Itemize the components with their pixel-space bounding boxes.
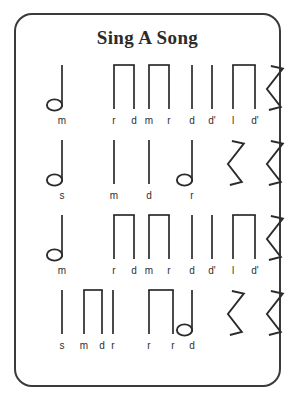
beamed-eighth-pair <box>83 290 103 334</box>
notation-canvas <box>16 284 283 342</box>
notation-row: smdr <box>16 134 279 209</box>
half-note <box>177 140 192 186</box>
solfege-label: m <box>145 115 153 127</box>
solfege-label: r <box>111 340 114 352</box>
solfege-label: r <box>190 190 193 202</box>
notation-canvas <box>16 209 283 267</box>
half-note <box>47 65 62 111</box>
solfege-label: m <box>80 340 88 352</box>
solfege-label: d <box>146 190 152 202</box>
row-glyphs <box>16 59 279 117</box>
row-solfege-labels: smdrrrd <box>16 340 279 358</box>
beamed-eighth-pair <box>148 215 170 259</box>
row-glyphs <box>16 209 279 267</box>
solfege-label: m <box>110 190 118 202</box>
notation-canvas <box>16 134 283 192</box>
beamed-eighth-pair <box>148 65 170 109</box>
solfege-label: d <box>189 115 195 127</box>
solfege-label: d' <box>251 265 258 277</box>
solfege-label: d' <box>251 115 258 127</box>
solfege-label: l <box>232 265 234 277</box>
half-note <box>47 140 62 186</box>
solfege-label: l <box>232 115 234 127</box>
solfege-label: d <box>131 265 137 277</box>
solfege-label: r <box>167 265 170 277</box>
solfege-label: d' <box>208 265 215 277</box>
solfege-label: d <box>189 340 195 352</box>
beamed-eighth-pair <box>232 215 256 259</box>
solfege-label: r <box>171 340 174 352</box>
quarter-rest <box>228 141 244 185</box>
solfege-label: r <box>147 340 150 352</box>
notation-row: mrdmrdd'ld' <box>16 209 279 284</box>
row-solfege-labels: mrdmrdd'ld' <box>16 265 279 283</box>
quarter-rest <box>267 66 283 110</box>
solfege-label: d <box>131 115 137 127</box>
row-glyphs <box>16 134 279 192</box>
solfege-label: d <box>189 265 195 277</box>
solfege-label: m <box>58 265 66 277</box>
solfege-label: m <box>58 115 66 127</box>
half-note <box>47 215 62 261</box>
solfege-label: s <box>60 340 65 352</box>
row-glyphs <box>16 284 279 342</box>
notation-canvas <box>16 59 283 117</box>
solfege-label: r <box>112 265 115 277</box>
page-title: Sing A Song <box>16 27 279 49</box>
quarter-rest <box>267 141 283 185</box>
notation-row: smdrrrd <box>16 284 279 359</box>
half-note <box>177 290 192 336</box>
notation-rows: mrdmrdd'ld' smdr mrdmrdd'ld' smdrrrd <box>16 59 279 359</box>
song-card: Sing A Song mrdmrdd'ld' smdr mrdmrdd'ld'… <box>14 13 281 387</box>
notation-row: mrdmrdd'ld' <box>16 59 279 134</box>
row-solfege-labels: mrdmrdd'ld' <box>16 115 279 133</box>
solfege-label: r <box>167 115 170 127</box>
beamed-eighth-pair <box>113 65 135 109</box>
quarter-rest <box>267 216 283 260</box>
beamed-eighth-pair <box>148 290 174 334</box>
solfege-label: m <box>145 265 153 277</box>
solfege-label: r <box>112 115 115 127</box>
solfege-label: s <box>60 190 65 202</box>
row-solfege-labels: smdr <box>16 190 279 208</box>
beamed-eighth-pair <box>232 65 256 109</box>
beamed-eighth-pair <box>113 215 135 259</box>
solfege-label: d <box>99 340 105 352</box>
quarter-rest <box>228 291 244 335</box>
quarter-rest <box>267 291 283 335</box>
solfege-label: d' <box>208 115 215 127</box>
